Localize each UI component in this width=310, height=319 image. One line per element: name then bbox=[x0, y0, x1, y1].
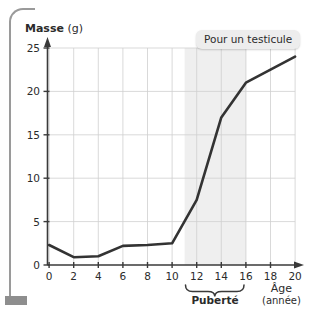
x-tick-label: 2 bbox=[70, 270, 77, 282]
puberty-brace-label: Puberté bbox=[184, 294, 246, 306]
page-edge-rule-decoration bbox=[9, 8, 35, 300]
y-axis-title-unit: (g) bbox=[67, 22, 83, 35]
callout-pour-un-testicule: Pour un testicule bbox=[196, 30, 300, 49]
x-axis bbox=[48, 262, 305, 269]
x-tick-label: 4 bbox=[95, 270, 102, 282]
y-axis-ticks bbox=[44, 48, 50, 265]
x-tick-label: 8 bbox=[144, 270, 151, 282]
y-axis-title-name: Masse bbox=[25, 22, 64, 35]
x-tick-labels: 0 2 4 6 8 10 12 14 16 18 20 bbox=[46, 270, 302, 282]
x-axis-title-unit: (année) bbox=[262, 295, 301, 307]
figure-container: Masse (g) bbox=[0, 0, 310, 319]
x-tick-label: 10 bbox=[165, 270, 178, 282]
x-tick-label: 6 bbox=[120, 270, 127, 282]
x-tick-label: 20 bbox=[288, 270, 301, 282]
x-tick-label: 0 bbox=[46, 270, 53, 282]
x-tick-label: 16 bbox=[239, 270, 253, 282]
y-axis bbox=[44, 37, 51, 265]
x-axis-title: Âge (année) bbox=[262, 283, 301, 307]
x-tick-label: 18 bbox=[264, 270, 277, 282]
vertical-gridlines bbox=[49, 48, 295, 265]
x-axis-title-name: Âge bbox=[262, 283, 301, 295]
callout-label: Pour un testicule bbox=[204, 33, 292, 45]
x-tick-label: 14 bbox=[215, 270, 229, 282]
puberty-shaded-band bbox=[185, 48, 247, 265]
y-axis-title: Masse (g) bbox=[25, 22, 83, 35]
page-edge-rule-foot-decoration bbox=[5, 296, 27, 305]
x-tick-label: 12 bbox=[190, 270, 203, 282]
